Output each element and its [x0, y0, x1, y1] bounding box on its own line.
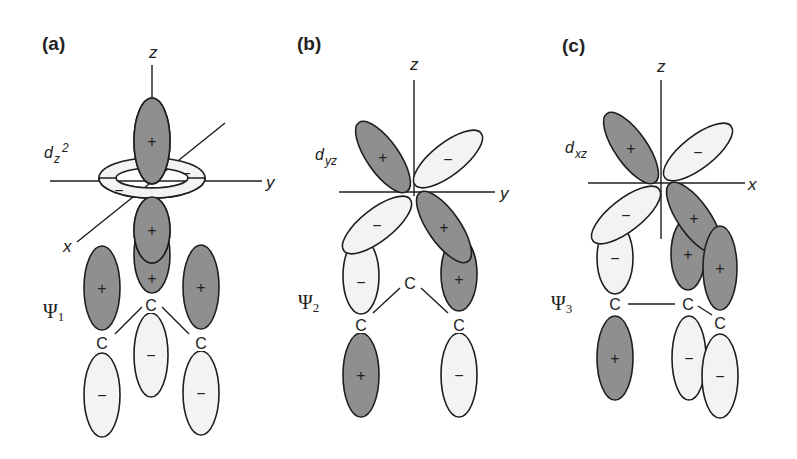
panel-label: (c)	[562, 35, 585, 56]
negative-lobe: −	[655, 114, 741, 191]
orbital-label: dz2	[44, 141, 69, 166]
sign-positive: +	[378, 149, 387, 166]
carbon-atom-label: C	[96, 335, 108, 352]
panel-a-dz2: (a)−−+++++−−−−++CCCzyxdz2Ψ1	[42, 33, 276, 437]
carbon-atom-label: C	[453, 317, 465, 334]
sign-positive: +	[689, 210, 698, 227]
sign-negative: −	[454, 367, 463, 384]
sign-negative: −	[610, 250, 619, 267]
x-axis-label: x	[747, 175, 757, 194]
panel-label: (a)	[42, 33, 65, 54]
negative-lobe: −	[405, 121, 491, 198]
sign-negative: −	[196, 385, 205, 402]
negative-lobe: −	[672, 316, 706, 400]
orbital-label: dyz	[315, 146, 337, 168]
c-c-bond	[162, 307, 189, 334]
z-axis-label: z	[409, 55, 419, 74]
sign-positive: +	[683, 246, 692, 263]
sign-negative: −	[97, 387, 106, 404]
sign-positive: +	[610, 350, 619, 367]
sign-positive: +	[626, 140, 635, 157]
z-axis-label: z	[656, 57, 666, 76]
sign-negative: −	[693, 144, 702, 161]
orbital-label: dxz	[565, 139, 587, 161]
sign-positive: +	[97, 280, 106, 297]
c-c-bond	[698, 306, 712, 315]
panel-c-dxz: (c)−++−−+++−−CCCzxdxzΨ3	[551, 35, 757, 418]
molecular-orbital-figure: (a)−−+++++−−−−++CCCzyxdz2Ψ1 (b)−++−−++−C…	[0, 0, 797, 459]
negative-lobe: −	[84, 353, 120, 437]
negative-lobe: −	[183, 351, 219, 435]
y-axis-label: y	[499, 184, 510, 203]
panel-label: (b)	[297, 33, 321, 54]
sign-positive: +	[356, 367, 365, 384]
carbon-atom-label: C	[609, 296, 621, 313]
negative-lobe: −	[702, 334, 738, 418]
sign-negative: −	[715, 368, 724, 385]
panel-b-dyz: (b)−++−−++−CCCzydyzΨ2	[297, 33, 510, 417]
negative-lobe: −	[334, 187, 420, 264]
sign-positive: +	[715, 260, 724, 277]
negative-lobe: −	[134, 313, 168, 397]
carbon-atom-label: C	[714, 315, 726, 332]
sign-positive: +	[147, 222, 156, 239]
sign-negative: −	[684, 350, 693, 367]
wavefunction-label: Ψ3	[551, 292, 572, 316]
sign-positive: +	[147, 133, 156, 150]
sign-positive: +	[147, 270, 156, 287]
carbon-atom-label: C	[355, 317, 367, 334]
x-axis-label: x	[62, 237, 72, 256]
carbon-atom-label: C	[404, 275, 416, 292]
positive-lobe: +	[703, 226, 737, 310]
positive-lobe: +	[597, 316, 633, 400]
positive-lobe: +	[346, 113, 420, 200]
wavefunction-label: Ψ2	[298, 291, 319, 315]
y-axis-label: y	[265, 173, 276, 192]
negative-lobe: −	[441, 333, 477, 417]
sign-negative: −	[621, 207, 630, 224]
sign-positive: +	[439, 219, 448, 236]
sign-positive: +	[196, 279, 205, 296]
dz2-top-lobe: −++	[99, 98, 205, 263]
positive-lobe: +	[84, 246, 120, 330]
sign-positive: +	[454, 271, 463, 288]
positive-lobe: +	[343, 333, 379, 417]
carbon-atom-label: C	[145, 297, 157, 314]
sign-negative: −	[114, 182, 123, 199]
wavefunction-label: Ψ1	[43, 300, 64, 324]
sign-negative: −	[443, 151, 452, 168]
carbon-atom-label: C	[195, 335, 207, 352]
positive-lobe: +	[594, 104, 668, 191]
positive-lobe: +	[183, 245, 219, 329]
sign-negative: −	[356, 274, 365, 291]
sign-negative: −	[146, 347, 155, 364]
carbon-atom-label: C	[682, 296, 694, 313]
z-axis-label: z	[148, 43, 158, 62]
sign-negative: −	[372, 217, 381, 234]
